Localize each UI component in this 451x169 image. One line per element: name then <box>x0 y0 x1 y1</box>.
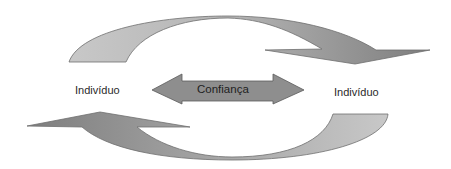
left-individual-label: Indivíduo <box>75 84 120 96</box>
top-arrow-shape <box>69 16 430 64</box>
trust-label: Confiança <box>197 83 249 95</box>
bottom-curved-arrow <box>27 112 388 160</box>
bottom-arrow-shape <box>27 112 388 160</box>
right-individual-label: Indivíduo <box>334 86 379 98</box>
top-curved-arrow <box>69 16 430 64</box>
